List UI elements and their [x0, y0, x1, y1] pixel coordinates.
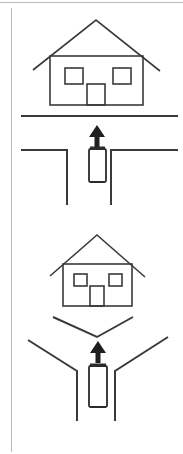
window-right-bottom — [109, 274, 122, 286]
house-top — [33, 20, 160, 105]
diagram-svg — [0, 0, 183, 454]
near-road-edge-right-bottom — [115, 337, 168, 421]
y-intersection-scenario — [28, 235, 168, 421]
scenario-diagram-canvas — [0, 0, 183, 454]
house-body-top — [50, 56, 143, 105]
near-road-edge-left-top — [21, 150, 67, 205]
door-top — [87, 84, 105, 105]
window-left-top — [65, 68, 83, 84]
ego-vehicle-bottom — [89, 364, 107, 408]
near-road-edge-right-top — [111, 150, 178, 205]
near-road-edge-left-bottom — [28, 340, 77, 421]
roof-top — [33, 20, 160, 71]
roof-bottom — [50, 235, 145, 277]
direction-arrow-up-top — [89, 125, 105, 147]
t-intersection-scenario — [21, 20, 178, 205]
window-right-top — [113, 68, 131, 84]
house-bottom — [50, 235, 145, 306]
door-bottom — [90, 286, 104, 306]
ego-vehicle-top — [89, 147, 106, 183]
window-left-bottom — [74, 274, 87, 286]
direction-arrow-up-bottom — [90, 341, 106, 363]
far-road-chevron-bottom — [53, 317, 133, 337]
